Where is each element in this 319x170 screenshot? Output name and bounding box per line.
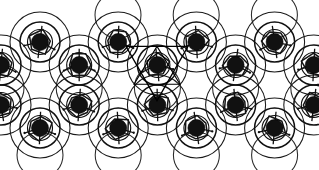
cluster-tick-dot bbox=[63, 69, 65, 71]
cluster-core bbox=[188, 34, 205, 51]
cluster-core bbox=[32, 34, 49, 51]
cluster-tick-dot bbox=[297, 108, 299, 110]
cluster-core bbox=[227, 97, 244, 114]
cluster-tick-dot bbox=[15, 71, 17, 73]
cluster-tick-dot bbox=[211, 46, 213, 48]
cluster-tick-dot bbox=[258, 131, 260, 133]
cluster-tick-dot bbox=[297, 69, 299, 71]
cluster-tick-dot bbox=[211, 130, 213, 132]
lattice-canvas bbox=[0, 0, 319, 170]
cluster-tick-dot bbox=[23, 132, 25, 134]
cluster-tick-dot bbox=[259, 48, 261, 50]
cluster-tick-dot bbox=[102, 133, 104, 135]
cluster-core bbox=[149, 57, 166, 74]
cluster-tick bbox=[236, 113, 237, 121]
cluster-core bbox=[266, 120, 283, 137]
cluster-tick-dot bbox=[220, 111, 222, 113]
cluster-core bbox=[227, 57, 244, 74]
cluster-tick-dot bbox=[181, 134, 183, 136]
cluster-core bbox=[305, 97, 319, 114]
cluster-tick-dot bbox=[93, 110, 95, 112]
cluster-core bbox=[188, 120, 205, 137]
cluster-tick-dot bbox=[132, 47, 134, 49]
cluster-core bbox=[32, 120, 49, 137]
cluster-tick-dot bbox=[180, 47, 182, 49]
cluster-core bbox=[266, 34, 283, 51]
cluster-tick-dot bbox=[133, 132, 135, 134]
cluster-core bbox=[71, 57, 88, 74]
cluster-tick-dot bbox=[172, 109, 174, 111]
cluster-tick-dot bbox=[141, 110, 143, 112]
cluster-tick-dot bbox=[23, 45, 25, 47]
cluster-tick-dot bbox=[93, 69, 95, 71]
cluster-core bbox=[305, 57, 319, 74]
cluster-tick-dot bbox=[54, 133, 56, 135]
cluster-tick-dot bbox=[53, 48, 55, 50]
cluster-tick-dot bbox=[62, 108, 64, 110]
cluster-tick-dot bbox=[102, 46, 104, 48]
cluster-tick-dot bbox=[250, 108, 252, 110]
cluster-core bbox=[71, 97, 88, 114]
cluster-tick-dot bbox=[249, 71, 251, 73]
cluster-tick-dot bbox=[289, 44, 291, 46]
cluster-core bbox=[110, 34, 127, 51]
cluster-tick-dot bbox=[288, 134, 290, 136]
cluster-core bbox=[110, 120, 127, 137]
cluster-tick-dot bbox=[219, 67, 221, 69]
lattice-figure bbox=[0, 0, 319, 170]
cluster-tick-dot bbox=[16, 107, 18, 109]
